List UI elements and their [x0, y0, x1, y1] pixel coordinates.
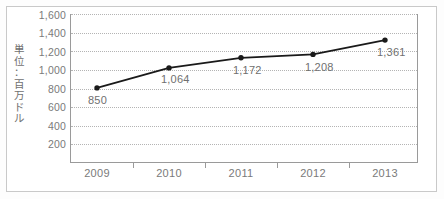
x-tick-label: 2013 — [350, 167, 420, 179]
x-tick-label: 2010 — [134, 167, 204, 179]
x-tick-label: 2011 — [206, 167, 276, 179]
x-tick-label: 2012 — [278, 167, 348, 179]
x-axis-tick-labels: 2009 2010 2011 2012 2013 — [0, 0, 444, 199]
x-tick-label: 2009 — [62, 167, 132, 179]
chart-figure: 単 位 ： 百 万 ド ル 1,600 1,400 1,200 1,000 80… — [0, 0, 444, 199]
